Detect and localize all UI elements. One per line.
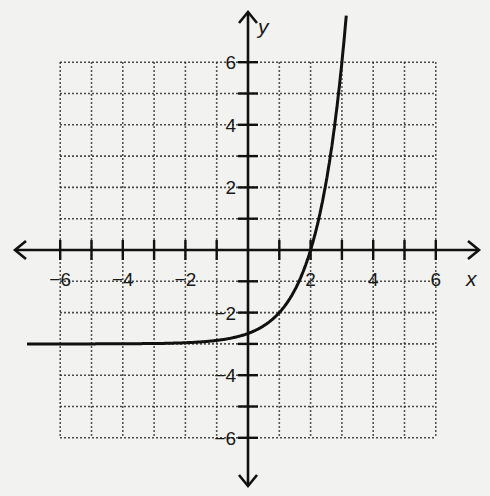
x-tick-label: 6: [431, 269, 442, 290]
y-tick-label: 4: [225, 115, 236, 136]
y-axis-label: y: [256, 15, 270, 38]
y-tick-label: −2: [214, 303, 236, 324]
y-tick-label: 2: [225, 177, 236, 198]
y-tick-label: −4: [214, 365, 236, 386]
y-tick-label: −6: [214, 428, 236, 449]
axes: [15, 12, 479, 486]
x-tick-label: 2: [305, 269, 316, 290]
x-axis-label: x: [465, 267, 478, 290]
exponential-graph: −6−4−2246642−2−4−6 y x: [0, 0, 490, 496]
function-curve: [27, 16, 346, 344]
x-tick-label: −2: [175, 269, 197, 290]
x-tick-label: 4: [368, 269, 379, 290]
x-tick-label: −6: [49, 269, 71, 290]
y-tick-label: 6: [225, 52, 236, 73]
x-tick-label: −4: [112, 269, 134, 290]
